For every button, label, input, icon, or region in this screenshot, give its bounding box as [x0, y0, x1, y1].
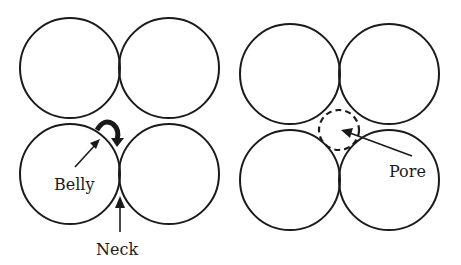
particle-bottom-left: [240, 130, 340, 230]
particle-top-right: [339, 24, 439, 124]
particle-bottom-left: [20, 124, 120, 224]
left-panel: [20, 18, 219, 224]
particle-packing-diagram: Belly Neck Pore: [0, 0, 461, 265]
particle-top-left: [240, 24, 340, 124]
particle-bottom-right: [119, 124, 219, 224]
particle-top-left: [20, 18, 120, 118]
particle-top-right: [119, 18, 219, 118]
pore-label: Pore: [389, 162, 426, 181]
right-panel: [240, 24, 439, 230]
neck-pointer-arrow-icon: [115, 196, 125, 232]
belly-label: Belly: [54, 175, 95, 194]
neck-label: Neck: [96, 240, 138, 259]
belly-pointer-arrow-icon: [75, 139, 100, 167]
